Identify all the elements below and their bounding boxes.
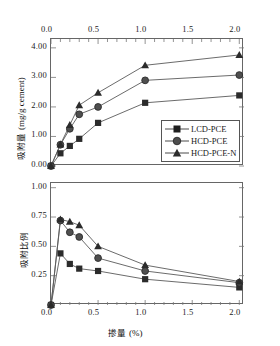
y-tick-label: 0.75: [26, 210, 47, 220]
data-point-hcd-pce: [76, 111, 83, 118]
data-point-hcd-pce-n: [94, 89, 102, 96]
x-tick-label: 0.5: [88, 307, 99, 317]
data-point-hcd-pce: [95, 255, 102, 262]
x-tick-label: 1.5: [182, 307, 193, 317]
data-point-lcd-pce: [57, 250, 63, 256]
legend-item[interactable]: HCD-PCE: [164, 135, 236, 147]
y-tick-label: 0.50: [26, 239, 47, 249]
legend-item[interactable]: HCD-PCE-N: [164, 147, 236, 159]
y-tick-label: 1.00: [26, 129, 47, 139]
data-point-hcd-pce: [142, 77, 149, 84]
data-point-lcd-pce: [142, 100, 148, 106]
data-point-hcd-pce: [76, 234, 83, 241]
x-tick-label: 1.5: [182, 24, 193, 34]
data-point-hcd-pce-n: [75, 221, 83, 228]
legend-marker-square-icon: [164, 123, 190, 135]
y-tick-label: 0.25: [26, 269, 47, 279]
x-tick-label: 0.0: [41, 307, 52, 317]
legend-label-hcd-pce-n: HCD-PCE-N: [190, 147, 236, 159]
x-axis-title-bottom: 掺量(%): [108, 326, 143, 338]
legend-marker-triangle-icon: [164, 147, 190, 159]
data-point-hcd-pce: [95, 104, 102, 111]
x-tick-label: 1.0: [135, 24, 146, 34]
figure-adsorption-charts: 0.00.51.01.52.0 0.001.002.003.004.00 吸附量…: [0, 0, 280, 346]
legend-label-lcd-pce: LCD-PCE: [190, 123, 226, 135]
x-axis-title-cjk: 掺量: [108, 328, 126, 338]
x-tick-label: 0.0: [41, 24, 52, 34]
y-axis-title-top: 吸附量(mg/g cement): [14, 77, 26, 160]
data-point-lcd-pce: [67, 261, 73, 267]
x-axis-title-unit: (%): [126, 328, 143, 338]
data-point-lcd-pce: [95, 268, 101, 274]
data-point-hcd-pce-n: [235, 51, 243, 58]
axis-tick-marks: [51, 188, 244, 305]
y-tick-label: 1.00: [26, 181, 47, 191]
x-tick-label: 2.0: [229, 307, 240, 317]
data-point-hcd-pce-n: [141, 261, 149, 268]
data-point-lcd-pce: [76, 266, 82, 272]
legend-label-hcd-pce: HCD-PCE: [190, 135, 227, 147]
legend-item[interactable]: LCD-PCE: [164, 123, 236, 135]
y-tick-label: 2.00: [26, 100, 47, 110]
data-point-hcd-pce-n: [75, 101, 83, 108]
data-point-hcd-pce: [142, 268, 149, 275]
y-axis-title-top-unit: (mg/g cement): [16, 77, 26, 133]
data-point-hcd-pce: [236, 72, 243, 79]
y-tick-label: 3.00: [26, 70, 47, 80]
data-point-lcd-pce: [95, 120, 101, 126]
plot-area-bottom: [51, 183, 244, 305]
data-point-hcd-pce: [66, 229, 73, 236]
y-axis-title-bottom: 吸附比例: [17, 232, 29, 268]
data-point-lcd-pce: [142, 276, 148, 282]
y-axis-title-top-cjk: 吸附量: [16, 133, 26, 160]
x-tick-label: 0.5: [88, 24, 99, 34]
data-point-lcd-pce: [76, 136, 82, 142]
x-tick-label: 1.0: [135, 307, 146, 317]
y-tick-label: 4.00: [26, 41, 47, 51]
data-point-lcd-pce: [57, 150, 63, 156]
chart-panel-adsorption-ratio: [50, 182, 243, 304]
y-tick-label: 0.00: [26, 159, 47, 169]
legend: LCD-PCE HCD-PCE HCD-PCE-N: [161, 120, 240, 162]
data-point-lcd-pce: [236, 92, 242, 98]
data-point-lcd-pce: [67, 143, 73, 149]
legend-marker-circle-icon: [164, 135, 190, 147]
x-tick-label: 2.0: [229, 24, 240, 34]
